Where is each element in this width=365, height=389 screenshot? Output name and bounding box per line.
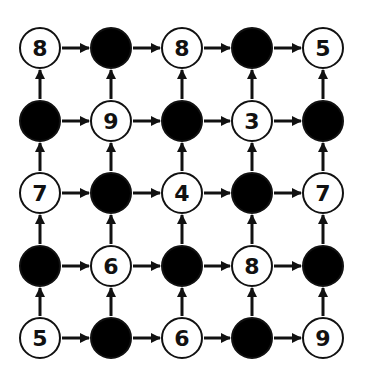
filled-circle (91, 173, 131, 213)
number-node: 7 (303, 173, 343, 213)
grid-diagram: 8859374768569 (0, 0, 365, 389)
number-node: 9 (91, 101, 131, 141)
filled-circle (91, 318, 131, 358)
filled-circle (232, 173, 272, 213)
filled-node (303, 101, 343, 141)
node-label: 5 (315, 36, 330, 61)
filled-node (232, 173, 272, 213)
filled-circle (20, 101, 60, 141)
filled-circle (303, 246, 343, 286)
number-node: 6 (91, 246, 131, 286)
filled-circle (20, 246, 60, 286)
node-label: 3 (244, 109, 259, 134)
filled-node (91, 318, 131, 358)
node-label: 7 (32, 181, 47, 206)
filled-circle (303, 101, 343, 141)
node-label: 8 (244, 254, 259, 279)
node-label: 6 (174, 326, 189, 351)
filled-node (232, 28, 272, 68)
filled-node (91, 28, 131, 68)
number-node: 8 (232, 246, 272, 286)
number-node: 7 (20, 173, 60, 213)
node-label: 9 (315, 326, 330, 351)
filled-circle (232, 28, 272, 68)
filled-circle (91, 28, 131, 68)
number-node: 6 (162, 318, 202, 358)
number-node: 5 (303, 28, 343, 68)
filled-node (20, 101, 60, 141)
filled-circle (162, 246, 202, 286)
number-node: 3 (232, 101, 272, 141)
node-label: 4 (174, 181, 189, 206)
number-node: 8 (20, 28, 60, 68)
node-label: 8 (32, 36, 47, 61)
number-node: 4 (162, 173, 202, 213)
node-label: 5 (32, 326, 47, 351)
filled-circle (162, 101, 202, 141)
filled-node (303, 246, 343, 286)
node-label: 8 (174, 36, 189, 61)
node-label: 7 (315, 181, 330, 206)
filled-node (162, 101, 202, 141)
filled-node (91, 173, 131, 213)
filled-node (162, 246, 202, 286)
filled-node (232, 318, 272, 358)
node-label: 6 (103, 254, 118, 279)
number-node: 8 (162, 28, 202, 68)
number-node: 5 (20, 318, 60, 358)
number-node: 9 (303, 318, 343, 358)
filled-circle (232, 318, 272, 358)
node-label: 9 (103, 109, 118, 134)
filled-node (20, 246, 60, 286)
